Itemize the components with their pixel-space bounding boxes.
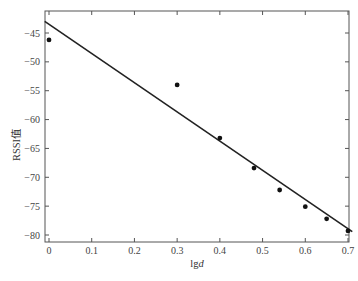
y-tick-label: −55 [24,85,40,96]
data-point [277,188,282,193]
y-tick-label: −60 [24,114,40,125]
x-tick-label: 0.2 [128,245,141,256]
y-tick-label: −65 [24,143,40,154]
data-point [324,216,329,221]
y-tick-label: −45 [24,28,40,39]
data-points [47,38,351,234]
y-tick-label: −75 [24,201,40,212]
y-axis-label: RSSI值 [10,128,22,161]
x-tick-label: 0 [47,245,52,256]
y-tick-label: −50 [24,56,40,67]
data-point [346,229,351,234]
chart-svg: −45−50−55−60−65−70−75−80 00.10.20.30.40.… [0,0,358,281]
x-tick-label: 0.5 [256,245,269,256]
x-tick-label: 0.6 [299,245,312,256]
x-tick-label: 0.1 [85,245,98,256]
x-tick-label: 0.3 [171,245,184,256]
y-axis-ticks: −45−50−55−60−65−70−75−80 [24,28,349,241]
fit-line [45,21,353,231]
data-point [217,136,222,141]
data-point [175,83,180,88]
x-tick-label: 0.7 [342,245,355,256]
y-tick-label: −80 [24,230,40,241]
data-point [252,166,257,171]
data-point [303,204,308,209]
y-tick-label: −70 [24,172,40,183]
x-axis-label: lgd [190,258,204,269]
x-axis-ticks: 00.10.20.30.40.50.60.7 [47,11,355,256]
data-point [47,38,52,43]
x-tick-label: 0.4 [214,245,227,256]
